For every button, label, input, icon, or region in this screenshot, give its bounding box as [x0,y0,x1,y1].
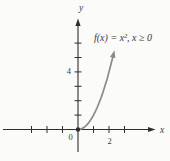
x-axis-label: x [159,125,165,135]
x-tick-label-2: 2 [107,136,111,146]
parabola-curve [78,57,113,130]
origin-label: 0 [68,132,72,142]
y-tick-label-4: 4 [67,66,72,76]
y-axis-arrow-icon [75,19,80,27]
y-axis-label: y [78,3,84,13]
curve-arrowhead-icon [110,50,115,58]
origin-point [76,127,80,131]
x-axis-arrow-icon [148,127,156,132]
function-graph-figure: y x 0 4 2 f(x) = x², x ≥ 0 [0,0,170,161]
function-annotation: f(x) = x², x ≥ 0 [94,32,152,44]
